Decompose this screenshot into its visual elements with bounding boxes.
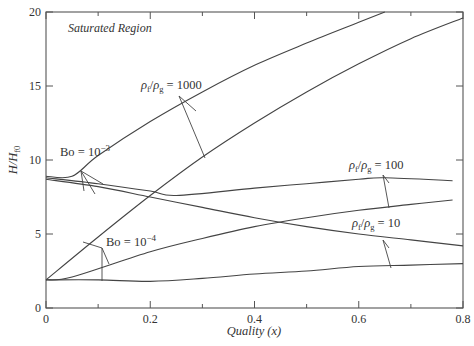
- y-tick-label: 5: [35, 227, 41, 241]
- axes: 00.20.40.60.805101520: [29, 5, 471, 326]
- x-axis-label: Quality (x): [227, 324, 282, 338]
- series-line-2: [46, 178, 453, 196]
- x-tick-label: 0.2: [143, 312, 158, 326]
- x-tick-label: 0.6: [351, 312, 366, 326]
- y-tick-label: 15: [29, 79, 41, 93]
- y-tick-label: 20: [29, 5, 41, 19]
- y-tick-label: 10: [29, 153, 41, 167]
- y-axis-label: H/Hf0: [6, 146, 22, 176]
- bo3-label: Bo = 10−3: [60, 143, 110, 159]
- ratio-100-label: ρf/ρg= 100: [348, 158, 404, 174]
- x-tick-label: 0.8: [456, 312, 471, 326]
- ratio-1000-label: ρf/ρg= 1000: [140, 78, 202, 94]
- series-line-5: [46, 264, 463, 282]
- y-tick-label: 0: [35, 301, 41, 315]
- x-tick-label: 0: [43, 312, 49, 326]
- saturated-region-label: Saturated Region: [68, 21, 152, 35]
- label-leader-lines: [81, 96, 391, 281]
- bo4-label: Bo = 10−4: [106, 233, 156, 249]
- ratio-10-label: ρf/ρg= 10: [351, 216, 400, 232]
- chart: 00.20.40.60.805101520 Saturated Region B…: [0, 0, 474, 346]
